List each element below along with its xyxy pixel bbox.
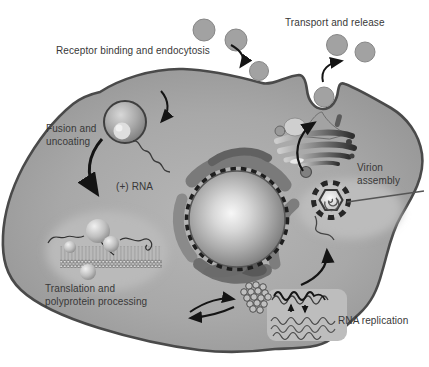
label-translation: Translation and polyprotein processing [45,283,147,308]
label-fusion-line2: uncoating [46,136,96,149]
capsid-hexagon [320,190,343,210]
label-virion-line2: assembly [357,175,400,188]
label-fusion-line1: Fusion and [46,123,96,136]
virion-inside-endosome [114,123,131,140]
ribosome [103,236,119,252]
figure-canvas: Receptor binding and endocytosis Transpo… [0,0,429,367]
label-translation-line1: Translation and [45,283,147,296]
virion-assembly-zone [298,179,402,239]
label-virion-assembly: Virion assembly [357,162,400,187]
label-transport-release: Transport and release [285,17,385,30]
label-translation-line2: polyprotein processing [45,296,147,309]
label-virion-line1: Virion [357,162,400,175]
release-arrow [322,61,341,82]
label-receptor-binding: Receptor binding and endocytosis [56,45,210,58]
virion-particle [355,42,375,62]
virion-particle [327,35,348,56]
label-rna-replication: RNA replication [338,315,408,328]
virion-particle [250,62,269,81]
golgi-vesicle [275,126,285,136]
ribosome [80,264,96,280]
ribosome [64,241,76,253]
endosome-vesicle [104,101,146,143]
virion-particle [314,87,334,107]
label-plus-rna: (+) RNA [116,181,153,194]
label-fusion-uncoating: Fusion and uncoating [46,123,96,148]
virion-particle [193,19,215,41]
